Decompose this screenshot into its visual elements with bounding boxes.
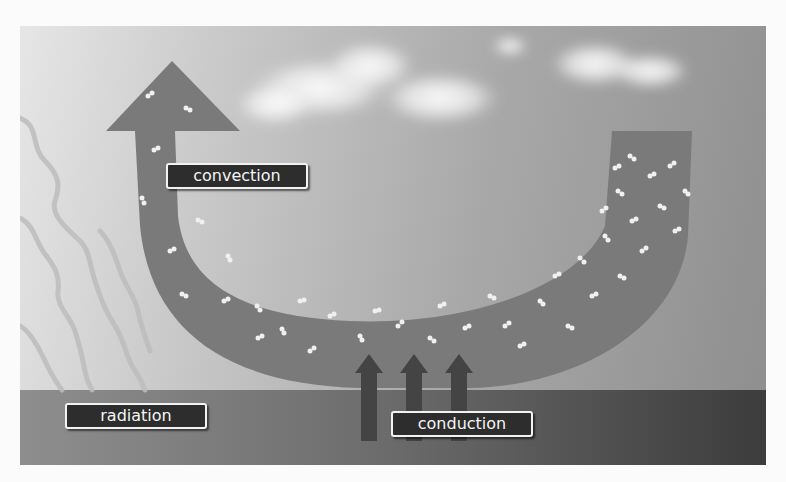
radiation-label: radiation bbox=[65, 403, 207, 429]
cloud-icon bbox=[235, 41, 500, 126]
radiation-waves-icon bbox=[20, 118, 150, 390]
diagram-artwork bbox=[20, 26, 766, 465]
conduction-label: conduction bbox=[391, 411, 533, 437]
convection-arrowhead-icon bbox=[106, 61, 240, 131]
convection-label: convection bbox=[166, 163, 308, 189]
heat-transfer-diagram: convection radiation conduction bbox=[20, 26, 766, 465]
cloud-icon bbox=[492, 36, 690, 89]
